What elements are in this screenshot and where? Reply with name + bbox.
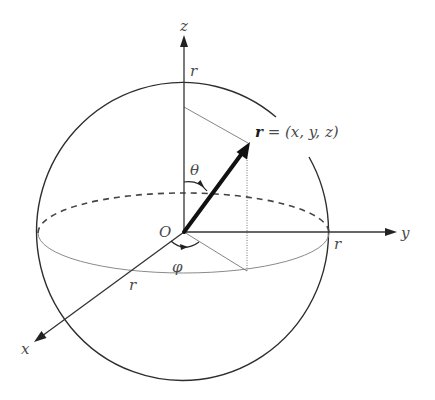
z-arrow-icon bbox=[180, 35, 188, 47]
theta-arrow-icon bbox=[197, 180, 204, 187]
equator-front bbox=[38, 233, 329, 273]
x-arrow-icon bbox=[34, 331, 47, 342]
origin-label: O bbox=[159, 223, 171, 241]
vector-equation: = (x, y, z) bbox=[263, 123, 339, 141]
phi-arc bbox=[171, 241, 199, 250]
position-vector-label: r = (x, y, z) bbox=[255, 123, 339, 141]
position-vector bbox=[184, 142, 250, 232]
theta-label: θ bbox=[190, 161, 199, 179]
theta-arc bbox=[184, 180, 207, 191]
x-axis-label: x bbox=[21, 340, 30, 358]
z-axis-label: z bbox=[179, 17, 188, 35]
xy-plane-projection-line bbox=[184, 232, 247, 271]
radius-label-z: r bbox=[190, 62, 198, 80]
y-arrow-icon bbox=[385, 228, 397, 236]
z-axis bbox=[180, 35, 188, 232]
radius-label-x: r bbox=[129, 276, 137, 294]
projection-line-to-z bbox=[184, 107, 248, 143]
radius-label-y: r bbox=[334, 235, 342, 253]
spherical-coordinates-diagram: z r θ O φ r x y r r = (x, y, z) bbox=[0, 0, 435, 400]
y-axis bbox=[184, 228, 397, 236]
phi-arrow-icon bbox=[180, 244, 188, 250]
x-axis bbox=[34, 232, 184, 342]
phi-label: φ bbox=[172, 258, 183, 276]
y-axis-label: y bbox=[400, 224, 410, 242]
